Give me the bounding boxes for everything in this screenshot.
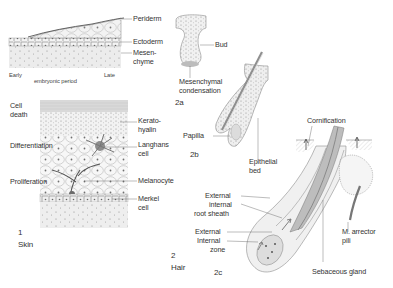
label-merkel-line2: cell <box>138 204 148 212</box>
label-root-sheath-line2: internal <box>209 201 232 209</box>
hair-follicle-drawing <box>227 126 373 272</box>
label-mesenchyme-line2: chyme <box>133 58 154 66</box>
embryonic-skin-drawing <box>9 18 132 68</box>
label-epithelial-bed-line2: bed <box>249 167 261 175</box>
label-melanocyte: Melanocyte <box>138 177 174 185</box>
label-cornification: Cornification <box>307 117 346 125</box>
adult-epidermis-drawing <box>40 100 137 228</box>
subpanel-2b-tag: 2b <box>190 150 199 159</box>
panel-1-number: 1 <box>18 228 22 237</box>
label-cell-death-line1: Cell <box>10 102 22 110</box>
label-mesenchymal-condensation-line1: Mesenchymal <box>179 78 222 86</box>
label-bud: Bud <box>215 41 228 49</box>
label-keratohyalin-line1: Kerato- <box>138 117 161 125</box>
panel-2-number: 2 <box>171 251 175 260</box>
label-arrector-pili-line2: pili <box>342 237 350 245</box>
label-proliferation: Proliferation <box>10 178 47 186</box>
label-papilla: Papilla <box>183 132 204 140</box>
label-merkel-line1: Merkel <box>138 195 159 203</box>
label-differentiation: Differentiation <box>10 142 53 150</box>
label-periderm: Periderm <box>133 15 161 23</box>
label-keratohyalin-line2: hyalin <box>138 126 156 134</box>
label-epithelial-bed-line1: Epithelial <box>249 158 277 166</box>
skin-hair-development-figure: Periderm Ectoderm Mesen- chyme Early emb… <box>0 0 393 288</box>
subpanel-2a-tag: 2a <box>175 98 184 107</box>
label-mesenchymal-condensation-line2: condensation <box>179 87 221 95</box>
panel-2-title: Hair <box>171 263 185 272</box>
label-langhans-line2: cell <box>138 150 148 158</box>
hair-peg-drawing <box>213 52 268 160</box>
label-langhans-line1: Langhans <box>138 141 169 149</box>
subpanel-2c-tag: 2c <box>214 268 222 277</box>
timeline-early: Early <box>9 72 22 79</box>
label-ectoderm: Ectoderm <box>133 38 163 46</box>
timeline-embryonic-period: embryonic period <box>34 78 77 85</box>
panel-1-title: Skin <box>18 240 33 249</box>
label-arrector-pili-line1: M. arrector <box>342 228 376 236</box>
label-zone-line2: Internal <box>197 237 220 245</box>
label-mesenchyme-line1: Mesen- <box>133 49 156 57</box>
label-zone-line3: zone <box>210 246 225 254</box>
label-sebaceous-gland: Sebaceous gland <box>312 268 366 276</box>
label-root-sheath-line3: root sheath <box>194 210 229 218</box>
label-cell-death-line2: death <box>10 111 28 119</box>
timeline-late: Late <box>104 72 115 79</box>
hair-bud-drawing <box>176 15 214 78</box>
label-root-sheath-line1: External <box>205 192 231 200</box>
label-zone-line1: External <box>195 228 221 236</box>
